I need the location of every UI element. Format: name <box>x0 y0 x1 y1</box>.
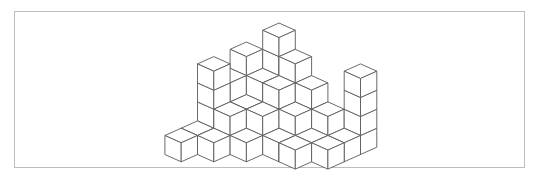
cube-stack <box>165 23 377 169</box>
isometric-cube-diagram <box>0 0 541 177</box>
